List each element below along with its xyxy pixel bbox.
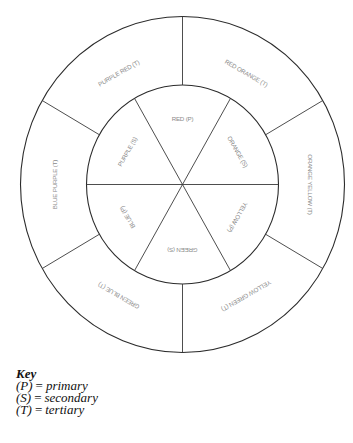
key-legend: Key (P)=primary (S)=secondary (T)=tertia… <box>16 368 98 416</box>
outer-segment-label: RED ORANGE (T) <box>224 58 270 88</box>
outer-segment-label: GREEN BLUE (T) <box>96 281 140 310</box>
wheel-lines <box>21 17 345 353</box>
outer-segment-label: PURPLE RED (T) <box>97 58 141 87</box>
color-wheel-diagram: RED (P)ORANGE (S)YELLOW (P)GREEN (S)BLUE… <box>0 0 353 360</box>
key-meaning: tertiary <box>45 402 84 417</box>
key-symbol: (T) <box>16 402 32 417</box>
outer-segment-label: YELLOW GREEN (T) <box>220 279 272 313</box>
wheel-labels: RED (P)ORANGE (S)YELLOW (P)GREEN (S)BLUE… <box>51 58 314 313</box>
outer-divider <box>42 101 99 135</box>
outer-divider <box>42 234 99 268</box>
inner-segment-label: BLUE (P) <box>118 205 136 230</box>
key-entry-tertiary: (T)=tertiary <box>16 404 98 416</box>
key-equals: = <box>35 402 42 417</box>
inner-segment-label: RED (P) <box>172 115 194 122</box>
inner-segment-label: PURPLE (S) <box>116 136 138 168</box>
outer-divider <box>266 101 323 135</box>
outer-divider <box>266 234 323 268</box>
outer-segment-label: BLUE PURPLE (T) <box>51 160 58 209</box>
inner-segment-label: GREEN (S) <box>167 247 197 254</box>
inner-segment-label: ORANGE (S) <box>226 135 250 169</box>
inner-segment-label: YELLOW (P) <box>226 201 249 234</box>
outer-segment-label: ORANGE YELLOW (T) <box>307 154 314 215</box>
